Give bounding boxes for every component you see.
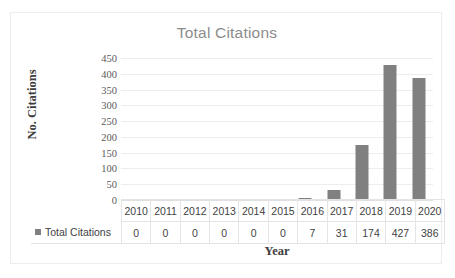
bar-slot (348, 58, 376, 200)
table-cell-value: 0 (268, 222, 297, 244)
table-cell-value: 386 (415, 222, 444, 244)
table-corner-blank (31, 200, 122, 222)
bar-slot (234, 58, 262, 200)
y-axis-tick-label: 350 (101, 84, 117, 95)
table-cell-category: 2015 (268, 200, 297, 222)
table-cell-category: 2016 (298, 200, 327, 222)
plot-area (121, 58, 433, 200)
table-cell-category: 2019 (386, 200, 415, 222)
table-cell-value: 0 (210, 222, 239, 244)
table-cell-category: 2014 (239, 200, 268, 222)
data-table: 2010201120122013201420152016201720182019… (31, 199, 445, 244)
table-row-values: Total Citations 000000731174427386 (31, 222, 444, 244)
legend-series-label: Total Citations (31, 222, 122, 244)
table-cell-category: 2012 (180, 200, 209, 222)
table-cell-value: 427 (386, 222, 415, 244)
table-cell-value: 174 (356, 222, 385, 244)
y-axis-tick-labels: 050100150200250300350400450 (83, 58, 117, 200)
table-row-categories: 2010201120122013201420152016201720182019… (31, 200, 444, 222)
bar-slot (320, 58, 348, 200)
table-cell-value: 0 (122, 222, 151, 244)
chart-container: Total Citations No. Citations 0501001502… (10, 12, 442, 264)
bar-slot (376, 58, 404, 200)
y-axis-title: No. Citations (25, 60, 40, 150)
x-axis-title: Year (121, 244, 433, 259)
table-cell-category: 2013 (210, 200, 239, 222)
y-axis-tick-label: 300 (101, 100, 117, 111)
legend-label-text: Total Citations (45, 226, 111, 238)
chart-title: Total Citations (11, 24, 443, 42)
table-cell-value: 0 (151, 222, 180, 244)
y-axis-tick-label: 250 (101, 116, 117, 127)
y-axis-tick-label: 450 (101, 53, 117, 64)
bar-slot (263, 58, 291, 200)
bar-slot (291, 58, 319, 200)
table-cell-value: 0 (180, 222, 209, 244)
table-cell-category: 2020 (415, 200, 444, 222)
table-cell-value: 7 (298, 222, 327, 244)
bar-slot (121, 58, 149, 200)
y-axis-tick-label: 50 (107, 179, 118, 190)
y-axis-tick-label: 150 (101, 147, 117, 158)
bar[interactable] (356, 145, 369, 200)
table-cell-value: 0 (239, 222, 268, 244)
table-cell-category: 2017 (327, 200, 356, 222)
bar-series (121, 58, 433, 200)
table-cell-category: 2018 (356, 200, 385, 222)
table-cell-value: 31 (327, 222, 356, 244)
bar-slot (178, 58, 206, 200)
table-cell-category: 2011 (151, 200, 180, 222)
bar-slot (149, 58, 177, 200)
bar-slot (206, 58, 234, 200)
y-axis-tick-label: 100 (101, 163, 117, 174)
series-color-swatch (35, 229, 41, 235)
y-axis-tick-label: 400 (101, 68, 117, 79)
bar[interactable] (412, 78, 425, 200)
bar-slot (405, 58, 433, 200)
y-axis-tick-label: 200 (101, 131, 117, 142)
table-cell-category: 2010 (122, 200, 151, 222)
bar[interactable] (384, 65, 397, 200)
